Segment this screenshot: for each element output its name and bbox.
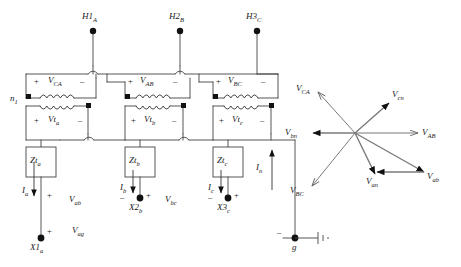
dot-vtb-secondary (181, 103, 186, 108)
coil-vtb (136, 106, 170, 109)
node-x3 (225, 195, 232, 202)
terminal-label-x3: X3c (217, 203, 230, 214)
winding-label-vt-a: Vta (48, 115, 59, 126)
earth-ground-icon (295, 232, 328, 244)
dot-ca-primary (26, 94, 31, 99)
sign-x3-minus: – (208, 193, 212, 202)
impedance-label-zt-c: Ztc (217, 156, 227, 167)
sign-v-ca-minus: – (80, 77, 84, 86)
coil-vta (40, 106, 74, 109)
impedance-label-zt-b: Ztb (129, 156, 140, 167)
phasor-v-ca (318, 92, 355, 133)
sign-x1-plus: + (47, 227, 52, 236)
sign-x2-minus: – (120, 193, 124, 202)
output-label-v-bc: Vbc (165, 195, 177, 206)
coil-vtc (224, 106, 258, 109)
sign-vt-a-minus: – (78, 116, 82, 125)
sign-vt-c-minus: – (260, 116, 264, 125)
terminal-label-h1: H1A (82, 12, 97, 23)
node-h1 (90, 28, 96, 34)
winding-label-v-ca: VCA (48, 76, 62, 87)
sign-x3-plus: + (234, 191, 239, 200)
phasor-label-v-cn: Vcn (392, 90, 404, 101)
phasor-v-ab-lv (355, 133, 424, 172)
sign-vt-a-plus: + (34, 116, 39, 125)
node-x1 (38, 235, 45, 242)
node-h2 (177, 28, 183, 34)
current-label-i-a: Ia (22, 186, 28, 197)
dot-vtc-secondary (269, 103, 274, 108)
node-h3 (254, 28, 260, 34)
hop-bot-2 (179, 137, 189, 140)
output-label-v-ag: Vag (72, 226, 84, 237)
terminal-label-x2: X2b (129, 203, 142, 214)
phasor-diagram-vectors (312, 92, 424, 186)
sign-v-ca-plus: + (34, 77, 39, 86)
sign-v-bc-plus: + (216, 77, 221, 86)
phasor-label-v-an: Van (366, 177, 378, 188)
sign-vt-c-plus: + (219, 116, 224, 125)
neutral-label-n1: n1 (10, 94, 18, 105)
terminal-label-x1: X1a (30, 243, 43, 254)
winding-label-v-bc: VBC (228, 76, 242, 87)
winding-label-vt-c: Vtc (232, 115, 243, 126)
sign-v-bc-minus: – (261, 77, 265, 86)
phasor-label-v-ca: VCA (296, 84, 310, 95)
dot-bc-primary (213, 94, 218, 99)
terminal-nodes (38, 28, 299, 242)
hop-bot-1 (84, 137, 94, 140)
sign-vt-b-plus: + (131, 116, 136, 125)
sign-ground-minus: – (277, 228, 281, 237)
phasor-label-v-ab-lv: Vab (427, 172, 439, 183)
sign-v-ab-plus: + (128, 77, 133, 86)
circuit-wires (26, 30, 295, 238)
diagram-svg (0, 0, 461, 267)
sign-v-ab-minus: – (173, 77, 177, 86)
diagram-canvas: H1A H2B H3C n1 VCA + – VAB + – VBC + – V… (0, 0, 461, 267)
coil-ca (40, 95, 74, 98)
output-label-v-ab: Vab (69, 195, 81, 206)
dot-ab-primary (125, 94, 130, 99)
winding-label-v-ab: VAB (140, 76, 153, 87)
phasor-label-v-bc: VBC (290, 186, 304, 197)
sign-vt-b-minus: – (172, 116, 176, 125)
current-label-i-n: In (256, 163, 262, 174)
phasor-label-v-ab-hv: VAB (422, 128, 435, 139)
sign-va-plus: + (47, 191, 52, 200)
ground-label-g: g (292, 243, 297, 252)
coil-ab (136, 95, 170, 98)
sign-x2-plus: + (146, 191, 151, 200)
terminal-label-h3: H3C (246, 12, 261, 23)
impedance-label-zt-a: Zta (30, 156, 41, 167)
node-x2 (137, 195, 144, 202)
terminal-label-h2: H2B (169, 12, 184, 23)
phasor-v-bc (312, 133, 355, 186)
coil-bc (224, 95, 258, 98)
phasor-v-cn (355, 103, 389, 133)
winding-label-vt-b: Vtb (144, 115, 155, 126)
dot-vta-secondary (86, 103, 91, 108)
phasor-label-v-bn: Vbn (285, 128, 297, 139)
